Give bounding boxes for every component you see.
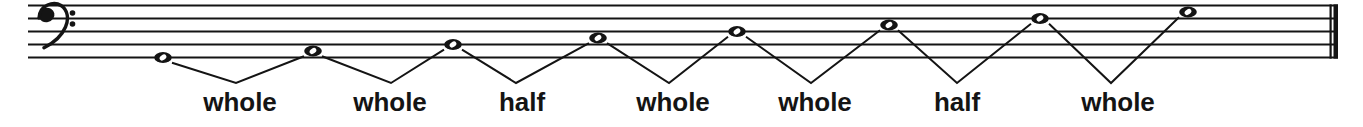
whole-note-B2 [444,39,462,50]
interval-label: whole [1080,87,1155,117]
bass-clef-icon [37,4,75,48]
interval-1: whole [322,50,444,117]
barline-thick [1334,4,1339,58]
bass-clef-curve [39,4,67,48]
whole-note-A2 [304,46,322,57]
interval-bracket [462,43,589,83]
interval-bracket [1049,17,1179,83]
whole-note-F3 [1031,13,1049,24]
bass-clef-dot-upper [70,10,76,16]
scale-interval-figure: wholewholehalfwholewholehalfwhole [0,0,1363,127]
interval-0: whole [172,56,304,117]
barline-thin [1330,4,1332,58]
whole-note-C3 [589,33,607,44]
interval-4: whole [746,30,880,117]
bass-clef-staff: wholewholehalfwholewholehalfwhole [0,0,1363,127]
interval-3: whole [607,37,728,117]
interval-bracket [322,50,444,83]
staff-lines [28,6,1338,58]
interval-label: whole [635,87,710,117]
final-barline [1330,4,1339,58]
whole-note-D3 [728,26,746,37]
whole-note-G2 [154,52,172,63]
interval-label: half [499,87,546,117]
interval-bracket [172,56,304,83]
interval-2: half [462,43,589,117]
whole-note-G3 [1179,7,1197,18]
interval-5: half [898,24,1031,117]
interval-label: whole [202,87,277,117]
bass-clef-dot-lower [70,21,76,27]
interval-label: half [934,87,981,117]
whole-note-E3 [880,20,898,31]
interval-label: whole [352,87,427,117]
interval-label: whole [777,87,852,117]
